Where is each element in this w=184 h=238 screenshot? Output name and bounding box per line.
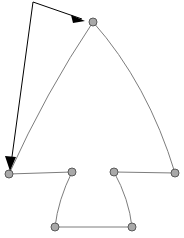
edge-leg-right (114, 172, 132, 227)
vertex-apex[interactable] (89, 18, 97, 26)
vertex-base-left-outer[interactable] (5, 170, 13, 178)
edge-base-left (9, 172, 72, 174)
arrowhead-icon-apex (71, 15, 85, 23)
edge-base-right (114, 172, 175, 173)
vertex-base-left-inner[interactable] (68, 168, 76, 176)
edge-arch-left (9, 22, 93, 174)
vertex-group (5, 18, 179, 231)
edge-arch-right (93, 22, 175, 173)
diagram-canvas: main reference (0, 0, 184, 238)
shape-diagram (0, 0, 184, 238)
annotation-leader-group (5, 2, 85, 171)
vertex-foot-left[interactable] (51, 223, 59, 231)
leader-line-to-base-left (11, 2, 33, 164)
vertex-base-right-inner[interactable] (110, 168, 118, 176)
annotation-label: main reference (12, 0, 68, 2)
vertex-base-right-outer[interactable] (171, 169, 179, 177)
edge-leg-left (55, 172, 72, 227)
leader-line-to-apex (33, 2, 82, 19)
vertex-foot-right[interactable] (128, 223, 136, 231)
edge-group (9, 22, 175, 227)
